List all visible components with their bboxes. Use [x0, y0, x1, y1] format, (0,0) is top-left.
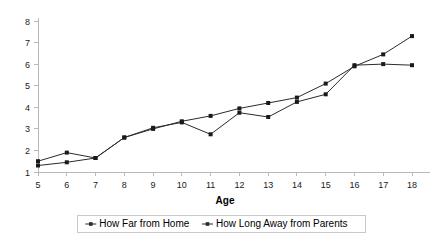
x-tick-label: 15 [321, 180, 331, 190]
data-point-marker [122, 136, 126, 140]
data-point-marker [237, 106, 241, 110]
data-point-marker [209, 114, 213, 118]
data-point-marker [266, 115, 270, 119]
plot-area: 12345678 56789101112131415161718 Age How… [25, 17, 430, 233]
y-tick-label: 1 [25, 168, 30, 178]
x-tick-label: 18 [407, 180, 417, 190]
x-axis-ticks: 56789101112131415161718 [35, 172, 417, 190]
data-point-marker [36, 159, 40, 163]
legend-label: How Far from Home [99, 218, 189, 229]
legend-point-icon [206, 222, 210, 226]
x-tick-label: 14 [292, 180, 302, 190]
data-point-marker [381, 52, 385, 56]
legend-item[interactable]: How Long Away from Parents [202, 218, 348, 229]
data-point-marker [237, 111, 241, 115]
data-point-marker [410, 63, 414, 67]
legend-item[interactable]: How Far from Home [85, 218, 189, 229]
x-axis-title: Age [216, 195, 235, 206]
data-point-marker [36, 164, 40, 168]
legend-point-icon [89, 222, 93, 226]
x-tick-label: 6 [64, 180, 69, 190]
x-tick-label: 7 [93, 180, 98, 190]
x-tick-label: 12 [234, 180, 244, 190]
x-tick-label: 17 [378, 180, 388, 190]
x-tick-label: 16 [349, 180, 359, 190]
data-point-marker [65, 160, 69, 164]
series-line [38, 36, 412, 165]
data-point-marker [324, 82, 328, 86]
data-point-marker [324, 92, 328, 96]
line-chart: 12345678 56789101112131415161718 Age How… [0, 0, 443, 243]
data-point-marker [353, 64, 357, 68]
data-point-marker [266, 101, 270, 105]
y-tick-label: 5 [25, 81, 30, 91]
legend-label: How Long Away from Parents [216, 218, 348, 229]
data-series-group [36, 34, 414, 167]
data-series [36, 34, 414, 167]
y-tick-label: 2 [25, 146, 30, 156]
chart-legend: How Far from HomeHow Long Away from Pare… [77, 216, 365, 233]
data-point-marker [295, 100, 299, 104]
x-tick-label: 10 [177, 180, 187, 190]
data-point-marker [295, 96, 299, 100]
x-tick-label: 8 [122, 180, 127, 190]
y-tick-label: 4 [25, 103, 30, 113]
x-tick-label: 11 [206, 180, 215, 190]
data-point-marker [65, 151, 69, 155]
y-tick-label: 8 [25, 17, 30, 27]
data-point-marker [410, 34, 414, 38]
y-tick-label: 3 [25, 124, 30, 134]
chart-canvas: 12345678 56789101112131415161718 Age How… [0, 0, 443, 243]
y-axis-ticks: 12345678 [25, 17, 38, 178]
data-point-marker [180, 119, 184, 123]
x-tick-label: 5 [35, 180, 40, 190]
data-point-marker [151, 127, 155, 131]
y-tick-label: 6 [25, 60, 30, 70]
y-tick-label: 7 [25, 38, 30, 48]
x-tick-label: 13 [263, 180, 273, 190]
data-point-marker [94, 156, 98, 160]
x-tick-label: 9 [151, 180, 156, 190]
data-point-marker [381, 62, 385, 66]
data-point-marker [209, 132, 213, 136]
